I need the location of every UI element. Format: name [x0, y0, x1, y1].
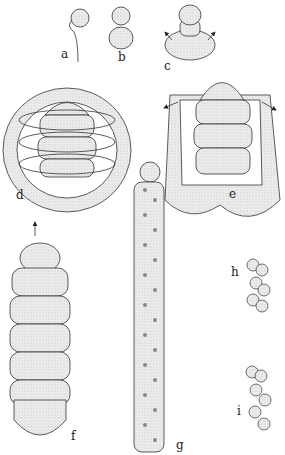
panel-e-embryo	[164, 83, 280, 217]
panel-i-cell-cluster	[246, 366, 271, 430]
panel-f-larva	[10, 222, 70, 435]
panel-label-d: d	[16, 188, 24, 202]
panel-label-a: a	[61, 47, 68, 61]
panel-label-i: i	[237, 404, 241, 418]
panel-label-f: f	[71, 429, 75, 443]
panel-g-larva-column	[134, 162, 164, 452]
panel-h-cell-cluster	[247, 259, 270, 312]
panel-c-embryo	[165, 5, 215, 60]
panel-label-h: h	[231, 265, 239, 279]
panel-label-e: e	[229, 187, 236, 201]
panel-b-embryo	[109, 7, 133, 49]
figure-illustration	[0, 0, 285, 455]
panel-label-b: b	[118, 50, 126, 64]
panel-label-c: c	[164, 59, 171, 73]
panel-label-g: g	[176, 438, 184, 452]
panel-a-embryo	[69, 9, 89, 62]
